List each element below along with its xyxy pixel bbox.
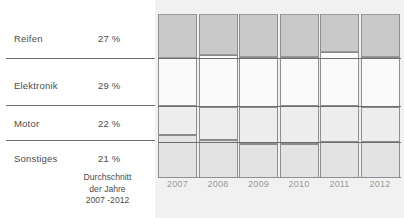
stacked-column-chart: 200720082009201020112012: [155, 0, 404, 218]
average-gridline-elektronik: [158, 106, 401, 107]
year-label-2007: 2007: [158, 179, 197, 189]
legend-label-reifen: Reifen: [14, 33, 43, 44]
caption-line-2: der Jahre: [60, 184, 155, 196]
average-gridline-reifen: [158, 58, 401, 59]
year-label-2008: 2008: [199, 179, 238, 189]
legend-row-motor: Motor 22 %: [0, 114, 155, 132]
legend-divider-3: [6, 140, 155, 141]
plot-area: [158, 14, 401, 178]
column-frame-2009: [239, 14, 278, 178]
year-label-2011: 2011: [320, 179, 359, 189]
legend-divider-2: [6, 105, 155, 106]
year-label-2009: 2009: [239, 179, 278, 189]
column-2007: [158, 14, 197, 178]
column-2012: [361, 14, 400, 178]
column-frame-2011: [320, 14, 359, 178]
year-label-2010: 2010: [280, 179, 319, 189]
legend-value-sonstiges: 21 %: [98, 153, 120, 164]
legend-value-reifen: 27 %: [98, 33, 120, 44]
column-2008: [199, 14, 238, 178]
column-2011: [320, 14, 359, 178]
legend-value-elektronik: 29 %: [98, 80, 120, 91]
legend-row-elektronik: Elektronik 29 %: [0, 76, 155, 94]
legend-row-reifen: Reifen 27 %: [0, 29, 155, 47]
caption-line-1: Durchschnitt: [60, 172, 155, 184]
legend-divider-1: [6, 58, 155, 59]
legend-value-motor: 22 %: [98, 118, 120, 129]
column-frame-2008: [199, 14, 238, 178]
average-gridline-motor: [158, 142, 401, 143]
legend-label-sonstiges: Sonstiges: [14, 153, 58, 164]
legend-row-sonstiges: Sonstiges 21 %: [0, 149, 155, 167]
column-2010: [280, 14, 319, 178]
caption-line-3: 2007 -2012: [60, 195, 155, 207]
column-frame-2010: [280, 14, 319, 178]
column-frame-2012: [361, 14, 400, 178]
plot-baseline: [158, 177, 401, 178]
year-label-2012: 2012: [361, 179, 400, 189]
column-frame-2007: [158, 14, 197, 178]
column-2009: [239, 14, 278, 178]
legend-label-elektronik: Elektronik: [14, 80, 58, 91]
legend-label-motor: Motor: [14, 118, 39, 129]
average-caption: Durchschnitt der Jahre 2007 -2012: [60, 172, 155, 207]
chart-figure: Reifen 27 % Elektronik 29 % Motor 22 % S…: [0, 0, 404, 218]
